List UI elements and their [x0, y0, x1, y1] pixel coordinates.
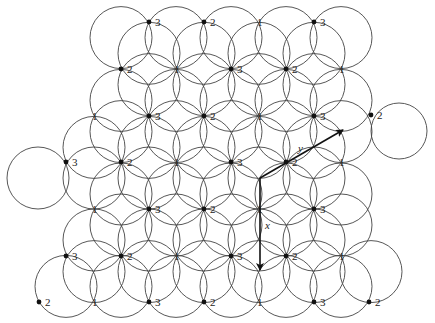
site-dot — [202, 20, 207, 25]
site-label: 1 — [92, 296, 98, 308]
site-dot — [229, 160, 234, 165]
site-label: 1 — [257, 110, 263, 122]
site-label: 2 — [292, 250, 298, 262]
site-dot — [284, 254, 289, 259]
position-marker-1: 1 — [257, 110, 263, 122]
site-dot — [119, 254, 124, 259]
position-marker-1: 1 — [257, 16, 263, 28]
position-marker-1: 1 — [339, 156, 345, 168]
position-marker-1: 1 — [174, 156, 180, 168]
position-marker-1: 1 — [339, 250, 345, 262]
site-dot — [284, 67, 289, 72]
site-dot — [202, 300, 207, 305]
site-label: 3 — [155, 110, 161, 122]
site-dot — [312, 20, 317, 25]
site-label: 2 — [127, 156, 133, 168]
site-label: 2 — [375, 296, 381, 308]
position-marker-2: 2 — [202, 110, 216, 122]
position-marker-3: 3 — [147, 16, 161, 28]
site-dot — [202, 207, 207, 212]
site-label: 1 — [339, 250, 345, 262]
position-marker-3: 3 — [312, 16, 326, 28]
site-dot — [119, 160, 124, 165]
site-label: 1 — [339, 156, 345, 168]
sphere-circles — [7, 7, 427, 318]
site-dot — [229, 254, 234, 259]
site-label: 2 — [210, 203, 216, 215]
site-label: 1 — [174, 250, 180, 262]
site-label: 1 — [174, 63, 180, 75]
sphere-circle — [90, 7, 152, 69]
site-label: 1 — [174, 156, 180, 168]
position-marker-2: 2 — [367, 296, 381, 308]
site-label: 1 — [257, 16, 263, 28]
coordinate-axes: x y — [260, 130, 343, 270]
site-label: 3 — [237, 63, 243, 75]
site-label: 3 — [237, 156, 243, 168]
site-label: 3 — [155, 16, 161, 28]
position-marker-1: 1 — [174, 250, 180, 262]
site-label: 2 — [377, 109, 383, 121]
site-label: 3 — [72, 156, 78, 168]
site-dot — [64, 160, 69, 165]
site-dot — [312, 114, 317, 119]
y-axis-arrow — [260, 130, 343, 178]
site-label: 2 — [127, 63, 133, 75]
site-dot — [37, 300, 42, 305]
site-dot — [147, 207, 152, 212]
position-marker-2: 2 — [37, 296, 51, 308]
position-marker-1: 1 — [257, 296, 263, 308]
site-label: 3 — [72, 250, 78, 262]
position-marker-3: 3 — [147, 110, 161, 122]
site-label: 1 — [339, 63, 345, 75]
site-dot — [202, 114, 207, 119]
y-axis-label: y — [297, 142, 303, 154]
sphere-circle — [35, 255, 97, 317]
site-label: 3 — [320, 110, 326, 122]
site-label: 3 — [320, 296, 326, 308]
site-label: 3 — [320, 16, 326, 28]
position-marker-1: 1 — [174, 63, 180, 75]
site-label: 3 — [155, 296, 161, 308]
site-dot — [367, 300, 372, 305]
site-dot — [312, 207, 317, 212]
site-label: 1 — [92, 203, 98, 215]
site-dot — [147, 300, 152, 305]
close-packed-layer-diagram: 321321321132132321321132133213212132132 … — [0, 0, 435, 323]
site-dot — [119, 67, 124, 72]
site-label: 2 — [210, 296, 216, 308]
sphere-circle — [7, 147, 69, 209]
site-dot — [147, 20, 152, 25]
site-label: 3 — [237, 250, 243, 262]
site-label: 2 — [210, 110, 216, 122]
site-dot — [312, 300, 317, 305]
site-label: 2 — [210, 16, 216, 28]
site-label: 1 — [92, 110, 98, 122]
site-dot — [147, 114, 152, 119]
site-label: 2 — [45, 296, 51, 308]
site-label: 3 — [320, 203, 326, 215]
site-label: 2 — [292, 63, 298, 75]
position-marker-2: 2 — [202, 16, 216, 28]
position-marker-1: 1 — [92, 203, 98, 215]
site-label: 2 — [127, 250, 133, 262]
site-label: 1 — [257, 296, 263, 308]
position-marker-1: 1 — [339, 63, 345, 75]
site-label: 3 — [155, 203, 161, 215]
site-dot — [229, 67, 234, 72]
position-marker-1: 1 — [92, 110, 98, 122]
site-dot — [64, 254, 69, 259]
position-marker-1: 1 — [92, 296, 98, 308]
x-axis-label: x — [264, 219, 270, 231]
site-dot — [369, 113, 374, 118]
position-marker-3: 3 — [312, 110, 326, 122]
